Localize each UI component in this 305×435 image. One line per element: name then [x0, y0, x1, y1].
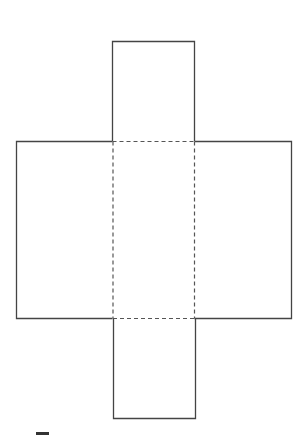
box-net-diagram: [0, 0, 305, 435]
right-panel-outline: [195, 142, 292, 319]
bottom-flap-outline: [114, 319, 196, 419]
top-flap-outline: [113, 42, 195, 142]
left-panel-outline: [17, 142, 113, 319]
